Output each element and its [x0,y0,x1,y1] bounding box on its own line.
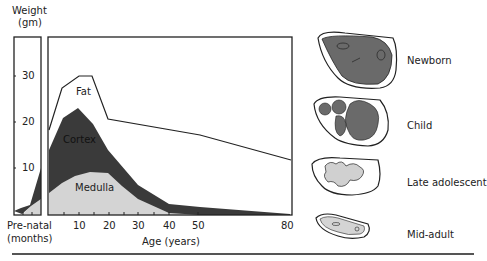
adrenal-child-illustration [314,97,388,146]
x-tick-10: 10 [73,220,86,231]
x-tick-40: 40 [163,220,176,231]
adrenal-mid-adult-illustration [316,214,369,238]
y-tick-20: 20 [22,116,35,127]
y-tick-10: 10 [22,162,35,173]
cortex-label: Cortex [63,134,96,145]
medulla-label: Medulla [75,182,114,193]
illustration-label-child: Child [407,120,432,131]
illustration-label-newborn: Newborn [407,55,452,66]
x-tick-30: 30 [132,220,145,231]
fat-label: Fat [76,86,91,97]
prenatal-label-2: (months) [7,233,52,244]
y-axis-title-1: Weight [12,5,47,16]
illustration-label-late-adolescent: Late adolescent [407,177,487,188]
illustration-label-mid-adult: Mid-adult [407,229,454,240]
x-tick-80: 80 [281,220,294,231]
x-axis-title: Age (years) [142,236,200,247]
adrenal-newborn-illustration [318,32,397,88]
y-tick-30: 30 [22,70,35,81]
prenatal-label-1: Pre-natal [7,220,52,231]
x-tick-20: 20 [103,220,116,231]
bottom-rule [12,253,474,255]
adrenal-late-adolescent-illustration [312,158,380,195]
x-tick-50: 50 [192,220,205,231]
y-axis-title-2: (gm) [18,17,42,28]
